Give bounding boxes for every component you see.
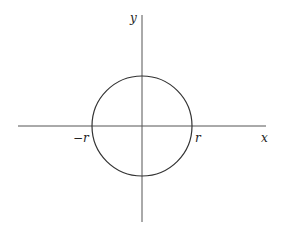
circle-diagram: y x −r r (0, 0, 284, 237)
y-axis-label: y (129, 11, 137, 25)
x-axis-label: x (261, 131, 268, 145)
negative-r-label: −r (73, 131, 90, 145)
positive-r-label: r (195, 131, 202, 145)
